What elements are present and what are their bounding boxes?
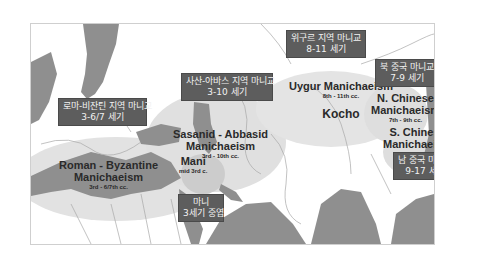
n-chinese-title: N. Chinese Manichaeism 7th - 9th cc.: [371, 92, 435, 125]
uygur-ko-label: 위구르 지역 마니교 8-11 세기: [286, 30, 366, 58]
mani-ko-label: 마니 3세기 중엽: [178, 194, 224, 222]
mani-title: Mani mid 3rd c.: [179, 155, 207, 176]
south-china-sea: [391, 194, 434, 244]
bay-of-bengal: [311, 189, 381, 244]
north-sea: [31, 52, 57, 124]
sasanid-abbasid-ko-label: 사산-아바스 지역 마니교 3-10 세기: [181, 73, 273, 101]
roman-byzantine-title: Roman - Byzantine Manichaeism 3rd - 6/7t…: [59, 159, 158, 192]
n-chinese-ko-label: 북 중국 마니교 7-9 세기: [375, 59, 435, 87]
map-frame: Roman - Byzantine Manichaeism 3rd - 6/7t…: [30, 23, 435, 245]
baltic-sea: [81, 24, 119, 99]
roman-byzantine-ko-label: 로마-비잔틴 지역 마니교 3-6/7 세기: [58, 98, 147, 126]
s-chinese-ko-label: 남 중국 마니교 9-17 세기: [393, 152, 435, 180]
